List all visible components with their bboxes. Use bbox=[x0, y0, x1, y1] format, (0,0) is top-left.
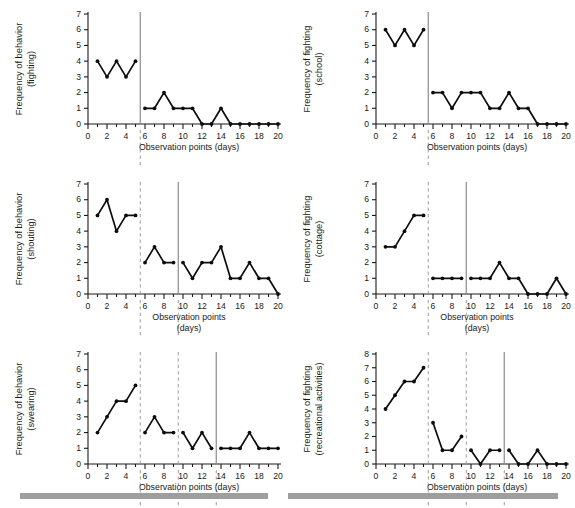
data-point bbox=[248, 431, 252, 435]
data-point bbox=[536, 448, 540, 452]
x-tick-label: 10 bbox=[178, 131, 188, 141]
x-tick-label: 16 bbox=[235, 301, 245, 311]
data-point bbox=[181, 261, 185, 265]
data-point bbox=[219, 245, 223, 249]
data-point bbox=[115, 59, 119, 63]
data-point bbox=[517, 106, 521, 110]
y-tick-label: 4 bbox=[364, 226, 369, 236]
data-point bbox=[403, 380, 407, 384]
x-tick-label: 18 bbox=[254, 131, 264, 141]
x-tick-label: 2 bbox=[393, 471, 398, 481]
data-point bbox=[460, 435, 464, 439]
y-tick-label: 4 bbox=[364, 56, 369, 66]
y-tick-label: 7 bbox=[364, 363, 369, 373]
data-point bbox=[219, 446, 223, 450]
x-tick-label: 12 bbox=[485, 471, 495, 481]
x-axis-title: Observation points bbox=[152, 312, 226, 322]
x-tick-label: 4 bbox=[412, 301, 417, 311]
data-point bbox=[393, 245, 397, 249]
data-point bbox=[479, 462, 483, 466]
x-axis-title: Observation points (days) bbox=[139, 142, 239, 152]
data-point bbox=[96, 431, 100, 435]
data-point bbox=[545, 122, 549, 126]
data-point bbox=[469, 91, 473, 95]
data-series-line bbox=[433, 423, 462, 451]
data-point bbox=[498, 448, 502, 452]
data-point bbox=[403, 229, 407, 233]
x-tick-label: 6 bbox=[431, 471, 436, 481]
y-tick-label: 0 bbox=[364, 459, 369, 469]
y-tick-label: 2 bbox=[364, 257, 369, 267]
data-point bbox=[200, 261, 204, 265]
x-tick-label: 2 bbox=[393, 131, 398, 141]
x-tick-label: 8 bbox=[162, 471, 167, 481]
data-point bbox=[134, 214, 138, 218]
panel-fighting-recreational: 01234567802468101214161820Frequency of f… bbox=[288, 340, 575, 508]
data-point bbox=[393, 44, 397, 48]
y-tick-label: 4 bbox=[364, 404, 369, 414]
y-axis-label-line2: (cottage) bbox=[314, 221, 324, 258]
x-tick-label: 6 bbox=[431, 131, 436, 141]
panel-shouting-behavior: 0123456702468101214161820Frequency of be… bbox=[0, 170, 287, 340]
data-series-line bbox=[509, 450, 566, 464]
y-axis-label-line1: Frequency of behavior bbox=[14, 363, 24, 456]
data-point bbox=[134, 384, 138, 388]
x-tick-label: 20 bbox=[273, 131, 283, 141]
x-tick-label: 18 bbox=[542, 131, 552, 141]
x-tick-label: 8 bbox=[162, 131, 167, 141]
x-tick-label: 2 bbox=[105, 301, 110, 311]
y-axis-label-line2: (shouting) bbox=[26, 218, 36, 259]
data-series-line bbox=[98, 200, 136, 231]
data-point bbox=[412, 380, 416, 384]
y-axis-label-line2: (recreational activities) bbox=[314, 362, 324, 455]
chart-panel-shouting-behavior: 0123456702468101214161820Frequency of be… bbox=[0, 170, 287, 340]
data-point bbox=[536, 122, 540, 126]
x-tick-label: 20 bbox=[273, 471, 283, 481]
data-point bbox=[393, 393, 397, 397]
y-tick-label: 3 bbox=[76, 412, 81, 422]
y-tick-label: 5 bbox=[364, 40, 369, 50]
x-tick-label: 10 bbox=[466, 131, 476, 141]
x-tick-label: 18 bbox=[542, 471, 552, 481]
x-tick-label: 18 bbox=[254, 301, 264, 311]
y-tick-label: 3 bbox=[364, 418, 369, 428]
data-point bbox=[172, 106, 176, 110]
data-point bbox=[488, 106, 492, 110]
data-point bbox=[469, 276, 473, 280]
data-point bbox=[191, 446, 195, 450]
y-tick-label: 2 bbox=[364, 431, 369, 441]
x-tick-label: 10 bbox=[466, 471, 476, 481]
y-axis-label-line1: Frequency of behavior bbox=[14, 23, 24, 116]
y-tick-label: 1 bbox=[76, 273, 81, 283]
y-tick-label: 1 bbox=[76, 443, 81, 453]
data-point bbox=[124, 75, 128, 79]
x-tick-label: 20 bbox=[273, 301, 283, 311]
y-tick-label: 2 bbox=[364, 87, 369, 97]
x-tick-label: 2 bbox=[105, 471, 110, 481]
data-point bbox=[105, 75, 109, 79]
x-tick-label: 20 bbox=[561, 131, 571, 141]
x-tick-label: 4 bbox=[412, 471, 417, 481]
chart-panel-fighting-recreational: 01234567802468101214161820Frequency of f… bbox=[288, 340, 575, 508]
x-tick-label: 8 bbox=[162, 301, 167, 311]
data-point bbox=[450, 106, 454, 110]
data-point bbox=[536, 292, 540, 296]
x-axis-title-line2: (days) bbox=[465, 323, 490, 333]
x-tick-label: 16 bbox=[523, 471, 533, 481]
data-point bbox=[498, 261, 502, 265]
x-tick-label: 14 bbox=[504, 131, 514, 141]
y-tick-label: 7 bbox=[76, 9, 81, 19]
data-point bbox=[238, 446, 242, 450]
y-tick-label: 0 bbox=[76, 119, 81, 129]
data-point bbox=[181, 106, 185, 110]
y-tick-label: 3 bbox=[76, 72, 81, 82]
x-tick-label: 12 bbox=[197, 471, 207, 481]
x-tick-label: 10 bbox=[178, 471, 188, 481]
data-point bbox=[210, 261, 214, 265]
chart-panel-fighting-cottage: 0123456702468101214161820Frequency of fi… bbox=[288, 170, 575, 340]
data-series-line bbox=[386, 368, 424, 409]
data-point bbox=[479, 91, 483, 95]
x-tick-label: 4 bbox=[124, 131, 129, 141]
y-tick-label: 4 bbox=[76, 396, 81, 406]
data-point bbox=[479, 276, 483, 280]
